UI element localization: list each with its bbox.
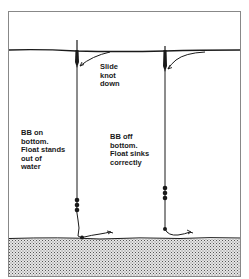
float-icon [163,46,167,72]
fishing-rig-diagram: Slide knot down BB on bottom. Float stan… [0,0,249,279]
split-shot-icon [163,186,168,201]
arrow-icon [168,52,205,69]
lake-bed [9,238,240,276]
water-line [9,50,240,52]
slide-knot-label: Slide knot down [100,63,120,89]
float-icon [75,40,79,68]
left-rig-label: BB on bottom. Float stands out of water [21,129,65,172]
right-rig [163,46,205,235]
right-rig-label: BB off bottom. Float sinks correctly [110,133,149,167]
split-shot-icon [75,198,80,213]
